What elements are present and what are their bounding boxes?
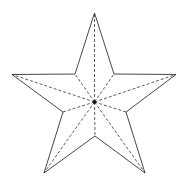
dashed-line <box>95 75 177 103</box>
star-outline <box>12 13 176 173</box>
dashed-line <box>63 102 95 112</box>
center-point <box>93 100 97 104</box>
dashed-line <box>95 102 146 173</box>
dashed-line <box>12 75 95 103</box>
star-diagram <box>0 0 185 185</box>
dashed-line <box>95 102 127 112</box>
dashed-line <box>75 74 95 102</box>
dashed-line <box>95 74 115 102</box>
dashed-line <box>44 102 95 173</box>
dashed-line <box>95 102 96 136</box>
